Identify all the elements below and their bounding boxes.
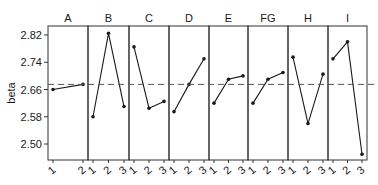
x-tick-label: 3 (315, 163, 327, 176)
panel-title: A (64, 12, 72, 24)
x-tick-label: 2 (260, 163, 272, 176)
panel-border (169, 26, 209, 160)
data-point (132, 45, 136, 49)
data-point (331, 57, 335, 61)
data-point (162, 100, 166, 104)
y-axis-label: beta (5, 81, 17, 103)
panel-border (209, 26, 248, 160)
x-tick-label: 3 (275, 163, 287, 176)
panel-d: D123 (166, 12, 209, 177)
data-point (91, 115, 95, 119)
data-point (172, 110, 176, 114)
data-point (122, 105, 126, 109)
x-tick-label: 3 (235, 163, 247, 176)
panel-border (48, 26, 88, 160)
x-tick-label: 1 (85, 163, 97, 176)
data-point (51, 88, 55, 92)
x-tick-label: 1 (285, 163, 297, 176)
x-tick-label: 3 (116, 163, 128, 176)
data-point (281, 71, 285, 75)
panel-i: I123 (325, 12, 367, 177)
data-point (266, 77, 270, 81)
x-tick-label: 3 (354, 163, 366, 176)
data-point (227, 77, 231, 81)
panel-title: H (304, 12, 312, 24)
x-tick-label: 2 (101, 163, 113, 176)
panels: A12B123C123D123E123FG123H123I123 (45, 12, 367, 177)
data-point (147, 106, 151, 110)
x-tick-label: 1 (206, 163, 218, 176)
panel-border (88, 26, 129, 160)
x-tick-label: 1 (166, 163, 178, 176)
panel-title: D (185, 12, 193, 24)
data-point (321, 72, 325, 76)
x-tick-label: 2 (75, 163, 87, 176)
panel-fg: FG123 (245, 12, 288, 177)
x-tick-label: 3 (196, 163, 208, 176)
data-point (212, 101, 216, 105)
data-point (291, 55, 295, 59)
x-tick-label: 1 (325, 163, 337, 176)
x-tick-label: 2 (340, 163, 352, 176)
panel-border (248, 26, 288, 160)
panel-c: C123 (126, 12, 169, 177)
data-point (202, 57, 206, 61)
x-tick-label: 3 (156, 163, 168, 176)
panel-title: I (346, 12, 349, 24)
panel-title: B (105, 12, 112, 24)
x-tick-label: 2 (221, 163, 233, 176)
x-tick-label: 1 (45, 163, 57, 176)
series-line (333, 42, 362, 154)
data-point (251, 101, 255, 105)
y-tick-label: 2.82 (21, 29, 42, 41)
panel-title: FG (260, 12, 275, 24)
data-point (306, 122, 310, 126)
series-line (293, 57, 323, 123)
y-axis: 2.502.582.662.742.82 (21, 29, 48, 150)
x-tick-label: 1 (245, 163, 257, 176)
data-point (107, 31, 111, 35)
x-tick-label: 2 (141, 163, 153, 176)
panel-h: H123 (285, 12, 328, 177)
series-line (253, 72, 283, 103)
data-point (346, 40, 350, 44)
series-line (53, 84, 83, 89)
panel-title: E (225, 12, 232, 24)
panel-a: A12 (45, 12, 88, 177)
x-tick-label: 1 (126, 163, 138, 176)
y-tick-label: 2.50 (21, 138, 42, 150)
data-point (360, 152, 364, 156)
series-line (93, 33, 124, 116)
panel-border (288, 26, 328, 160)
x-tick-label: 2 (300, 163, 312, 176)
y-tick-label: 2.58 (21, 111, 42, 123)
data-point (241, 74, 245, 78)
series-line (134, 47, 164, 108)
main-effects-chart: 2.502.582.662.742.82 beta A12B123C123D12… (0, 0, 378, 185)
y-tick-label: 2.74 (21, 56, 42, 68)
panel-b: B123 (85, 12, 129, 177)
panel-title: C (145, 12, 153, 24)
x-tick-label: 2 (181, 163, 193, 176)
panel-e: E123 (206, 12, 248, 177)
y-tick-label: 2.66 (21, 84, 42, 96)
